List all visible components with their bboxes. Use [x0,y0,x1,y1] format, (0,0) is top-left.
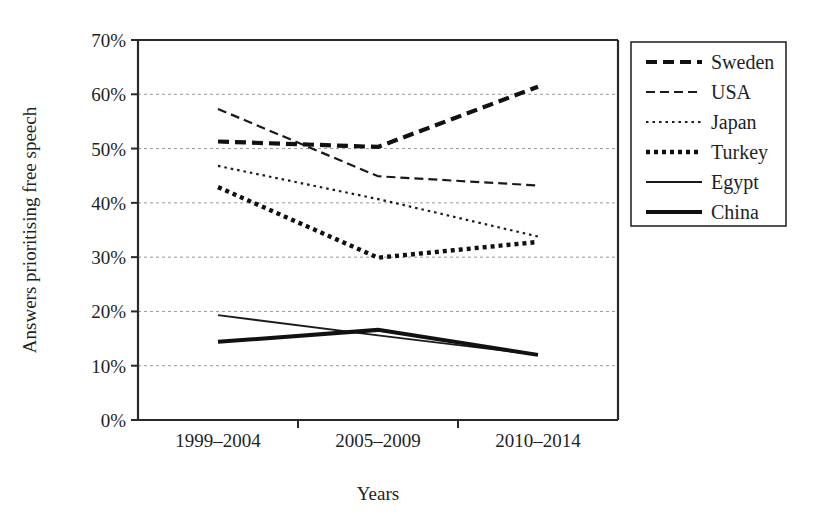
y-tick-label-0: 0% [101,410,127,431]
y-tick-label-20: 20% [91,301,126,322]
legend-label-japan: Japan [711,111,757,134]
legend-label-egypt: Egypt [711,171,759,194]
y-tick-label-10: 10% [91,356,126,377]
y-tick-label-40: 40% [91,193,126,214]
y-tick-label-50: 50% [91,139,126,160]
legend-label-turkey: Turkey [711,141,768,164]
chart-figure: 0%10%20%30%40%50%60%70% 1999–20042005–20… [0,0,813,529]
x-tick-label-1: 1999–2004 [175,430,261,451]
y-tick-label-60: 60% [91,84,126,105]
legend-label-usa: USA [711,81,752,103]
x-axis-title: Years [357,483,399,504]
x-tick-label-2: 2005–2009 [335,430,421,451]
y-tick-label-70: 70% [91,30,126,51]
legend-label-china: China [711,201,759,223]
y-axis-ticks: 0%10%20%30%40%50%60%70% [91,30,138,431]
legend-label-sweden: Sweden [711,51,774,73]
plot-background [138,40,618,420]
x-tick-label-3: 2010–2014 [495,430,581,451]
x-axis-ticks: 1999–20042005–20092010–2014 [175,420,581,451]
line-chart: 0%10%20%30%40%50%60%70% 1999–20042005–20… [0,0,813,529]
y-axis-title: Answers prioritising free speech [19,106,40,353]
y-tick-label-30: 30% [91,247,126,268]
